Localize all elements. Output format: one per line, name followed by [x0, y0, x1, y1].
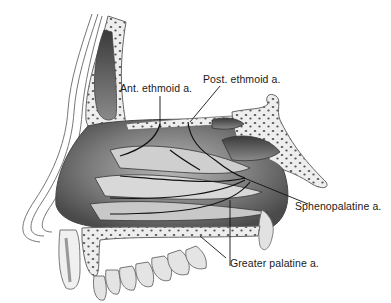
nasal-cavity-diagram: Ant. ethmoid a. Post. ethmoid a. Sphenop… — [0, 0, 391, 303]
label-post-ethmoid-artery: Post. ethmoid a. — [203, 73, 280, 85]
anatomy-illustration — [0, 0, 391, 303]
label-sphenopalatine-artery: Sphenopalatine a. — [295, 200, 381, 212]
frontal-sinus — [94, 30, 116, 120]
leader-post-ethmoid — [190, 86, 220, 122]
label-greater-palatine-artery: Greater palatine a. — [230, 257, 319, 269]
label-ant-ethmoid-artery: Ant. ethmoid a. — [120, 82, 192, 94]
teeth — [93, 246, 206, 300]
